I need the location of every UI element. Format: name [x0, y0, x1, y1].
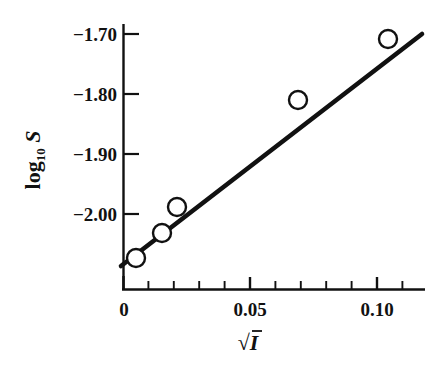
y-axis-title-variable: S: [20, 131, 45, 143]
data-point: [379, 30, 397, 48]
data-point: [168, 198, 186, 216]
figure-container: −1.70 −1.80 −1.90 −2.00 0 0.05 0.10 log1…: [0, 0, 440, 366]
x-axis-ticks: [124, 276, 403, 290]
y-axis-title-base: log: [20, 161, 45, 189]
y-axis-tick-labels: −1.70 −1.80 −1.90 −2.00: [73, 24, 117, 225]
y-tick-label-0: −1.70: [73, 24, 117, 45]
x-tick-label-2: 0.10: [360, 299, 393, 320]
x-axis-title-radical: √: [238, 330, 251, 355]
y-tick-label-3: −2.00: [73, 204, 117, 225]
y-axis-title-subscript: 10: [33, 148, 48, 161]
y-axis-title: log10 S: [20, 131, 48, 190]
data-point: [127, 249, 145, 267]
x-tick-label-1: 0.05: [233, 299, 266, 320]
x-axis-tick-labels: 0 0.05 0.10: [119, 299, 393, 320]
y-tick-label-1: −1.80: [73, 84, 117, 105]
data-points: [127, 30, 397, 267]
plot-canvas: −1.70 −1.80 −1.90 −2.00 0 0.05 0.10 log1…: [0, 0, 440, 366]
x-tick-label-0: 0: [119, 299, 129, 320]
x-axis-title-variable: I: [249, 330, 260, 355]
svg-text:√I: √I: [238, 330, 260, 355]
svg-text:log10 S: log10 S: [20, 131, 48, 190]
y-axis-ticks: [123, 34, 139, 214]
data-point: [153, 224, 171, 242]
data-point: [289, 91, 307, 109]
y-tick-label-2: −1.90: [73, 144, 117, 165]
x-axis-title: √I: [238, 330, 262, 355]
